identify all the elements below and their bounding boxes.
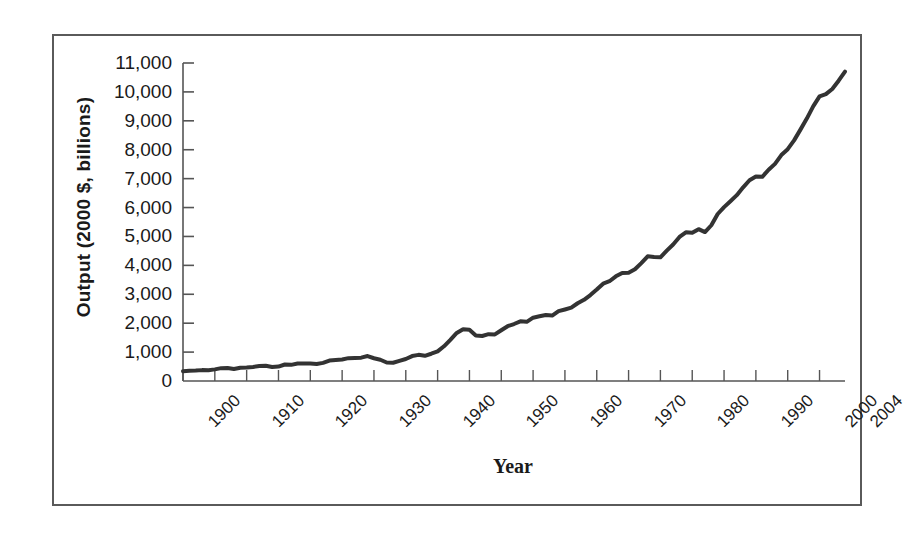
chart-page: 11,00010,0009,0008,0007,0006,0005,0004,0… — [0, 0, 914, 533]
x-axis-ticks — [183, 370, 820, 381]
axis-lines — [183, 63, 845, 381]
chart-plot-area — [0, 0, 914, 533]
output-series-line — [183, 72, 845, 372]
y-axis-ticks — [183, 63, 194, 352]
